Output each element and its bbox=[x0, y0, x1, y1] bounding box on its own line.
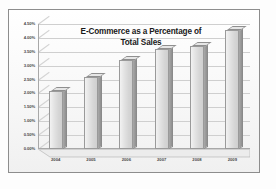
chart-frame: 4.50%4.00%3.50%3.00%2.50%2.00%1.50%1.00%… bbox=[8, 9, 260, 173]
x-axis-tick-label: 2009 bbox=[228, 158, 237, 162]
bar-side-face bbox=[133, 58, 137, 149]
bar-side-face bbox=[169, 47, 173, 149]
bar-top-face bbox=[227, 26, 247, 30]
x-axis-tick-label: 2006 bbox=[122, 158, 131, 162]
floor-shape bbox=[38, 149, 250, 159]
bar-column[interactable]: 2006 bbox=[119, 60, 133, 149]
gridline bbox=[38, 149, 250, 150]
bar-column[interactable]: 2005 bbox=[84, 77, 98, 149]
bar-front-face bbox=[84, 77, 98, 149]
bar-top-face bbox=[86, 73, 106, 77]
bar-side-face bbox=[204, 44, 208, 149]
bar-front-face bbox=[155, 49, 169, 149]
chart-title-line-2: Total Sales bbox=[57, 37, 225, 48]
bar-column[interactable]: 2004 bbox=[49, 91, 63, 149]
y-axis-tick-label: 1.50% bbox=[24, 105, 35, 109]
x-axis-tick-label: 2005 bbox=[86, 158, 95, 162]
bar-column[interactable]: 2008 bbox=[190, 46, 204, 149]
bar-front-face bbox=[119, 60, 133, 149]
y-axis-tick-label: 3.00% bbox=[24, 64, 35, 68]
chart-title: E-Commerce as a Percentage of Total Sale… bbox=[57, 26, 225, 48]
bar-front-face bbox=[190, 46, 204, 149]
y-axis-tick-label: 4.50% bbox=[24, 22, 35, 26]
bar-side-face bbox=[63, 88, 67, 149]
bar-top-face bbox=[51, 87, 71, 91]
y-axis-tick-label: 2.00% bbox=[24, 91, 35, 95]
chart-title-line-1: E-Commerce as a Percentage of bbox=[57, 26, 225, 37]
bar-column[interactable]: 2007 bbox=[155, 49, 169, 149]
x-axis-tick-label: 2008 bbox=[192, 158, 201, 162]
y-axis-tick-label: 1.00% bbox=[24, 119, 35, 123]
y-axis-tick-label: 2.50% bbox=[24, 77, 35, 81]
x-axis-tick-label: 2007 bbox=[157, 158, 166, 162]
y-axis-tick-label: 0.00% bbox=[24, 147, 35, 151]
bar-front-face bbox=[49, 91, 63, 149]
bar-top-face bbox=[121, 56, 141, 60]
bar-side-face bbox=[239, 27, 243, 149]
chart-floor bbox=[38, 149, 250, 159]
bar-front-face bbox=[225, 30, 239, 149]
bar-column[interactable]: 2009 bbox=[225, 30, 239, 149]
y-axis-tick-label: 4.00% bbox=[24, 36, 35, 40]
y-axis-tick-label: 3.50% bbox=[24, 50, 35, 54]
chart-screenshot: 4.50%4.00%3.50%3.00%2.50%2.00%1.50%1.00%… bbox=[0, 0, 276, 189]
y-axis-tick-label: 0.50% bbox=[24, 133, 35, 137]
x-axis-tick-label: 2004 bbox=[51, 158, 60, 162]
bar-side-face bbox=[98, 74, 102, 149]
